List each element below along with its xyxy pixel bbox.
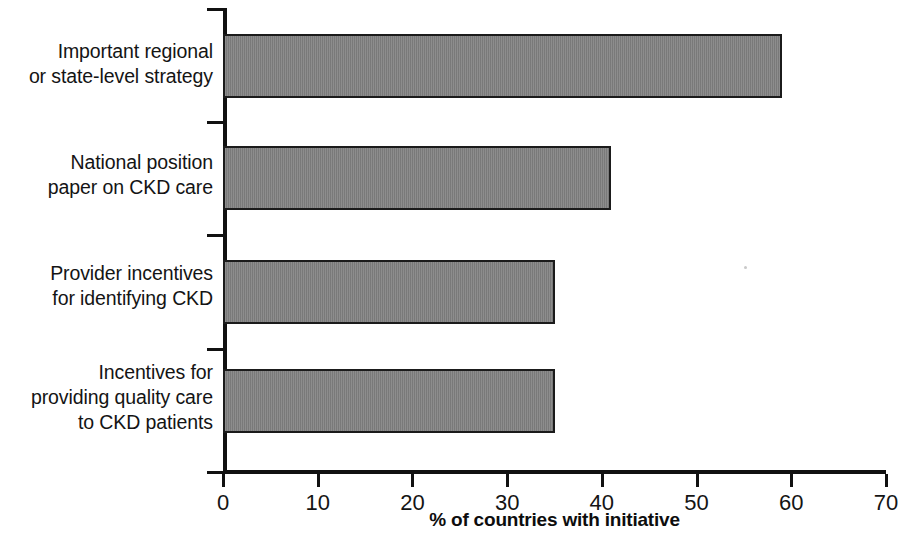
bar-national-position-paper-on-ckd-care	[223, 146, 611, 210]
x-axis-tick-mark	[222, 474, 225, 487]
plot-area	[223, 8, 886, 474]
x-axis-tick-mark	[790, 474, 793, 487]
bar-incentives-for-providing-quality-care-to-ckd-patients	[223, 369, 555, 433]
category-label-incentives-for-providing-quality-care-to-ckd-patients: Incentives for providing quality care to…	[0, 360, 213, 435]
y-axis-tick	[207, 348, 223, 351]
x-axis-tick-mark	[506, 474, 509, 487]
bar-important-regional-or-state-level-strategy	[223, 34, 782, 98]
scan-artifact-speck	[744, 266, 747, 269]
category-label-important-regional-or-state-level-strategy: Important regional or state-level strate…	[0, 39, 213, 89]
category-label-national-position-paper-on-ckd-care: National position paper on CKD care	[0, 150, 213, 200]
y-axis-tick	[207, 8, 223, 11]
x-axis-title: % of countries with initiative	[223, 509, 886, 531]
y-axis-tick	[207, 234, 223, 237]
x-axis-tick-mark	[601, 474, 604, 487]
x-axis-tick-mark	[696, 474, 699, 487]
x-axis-tick-mark	[411, 474, 414, 487]
y-axis-tick	[207, 121, 223, 124]
category-label-provider-incentives-for-identifying-ckd: Provider incentives for identifying CKD	[0, 261, 213, 311]
x-axis-tick-mark	[885, 474, 888, 487]
x-axis-tick-mark	[317, 474, 320, 487]
category-axis-labels: Important regional or state-level strate…	[0, 0, 213, 474]
y-axis-tick	[207, 471, 223, 474]
bar-provider-incentives-for-identifying-ckd	[223, 260, 555, 324]
